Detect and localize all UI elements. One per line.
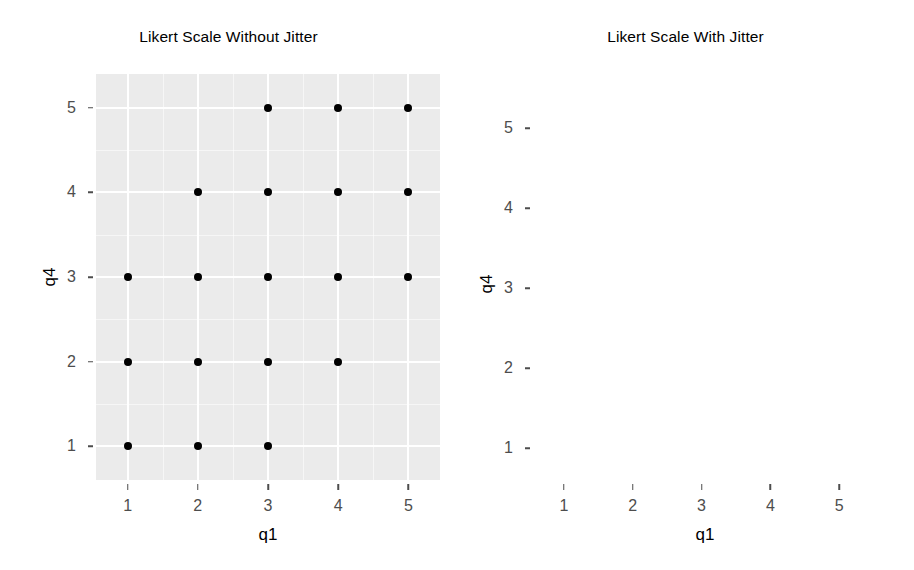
- x-tick-mark: [632, 484, 634, 490]
- y-tick-mark: [525, 127, 530, 129]
- x-tick-label: 3: [697, 497, 706, 515]
- data-point: [194, 442, 202, 450]
- panel-without-jitter: Likert Scale Without Jitter 1234512345 q…: [0, 0, 457, 570]
- y-tick-label: 1: [487, 439, 513, 457]
- x-tick-mark: [770, 484, 772, 490]
- x-tick-mark: [838, 484, 840, 490]
- data-point: [194, 273, 202, 281]
- y-tick-mark: [88, 445, 93, 447]
- data-point: [124, 442, 132, 450]
- y-tick-label: 2: [50, 353, 76, 371]
- data-point: [264, 273, 272, 281]
- y-tick-label: 1: [50, 437, 76, 455]
- data-point: [194, 188, 202, 196]
- figure-canvas: Likert Scale Without Jitter 1234512345 q…: [0, 0, 914, 570]
- x-tick-mark: [337, 484, 339, 490]
- x-tick-label: 1: [560, 497, 569, 515]
- y-tick-label: 4: [50, 183, 76, 201]
- data-point: [264, 104, 272, 112]
- panel-title-left: Likert Scale Without Jitter: [0, 28, 457, 46]
- data-point: [404, 273, 412, 281]
- x-tick-mark: [267, 484, 269, 490]
- y-tick-label: 2: [487, 359, 513, 377]
- x-tick-label: 5: [835, 497, 844, 515]
- x-tick-label: 2: [193, 497, 202, 515]
- data-point: [264, 188, 272, 196]
- y-tick-mark: [88, 192, 93, 194]
- x-tick-mark: [563, 484, 565, 490]
- data-point: [194, 358, 202, 366]
- x-tick-label: 4: [334, 497, 343, 515]
- x-tick-label: 5: [404, 497, 413, 515]
- x-tick-mark: [127, 484, 129, 490]
- y-tick-mark: [525, 447, 530, 449]
- x-tick-label: 1: [123, 497, 132, 515]
- x-tick-mark: [197, 484, 199, 490]
- y-tick-label: 4: [487, 199, 513, 217]
- y-tick-mark: [88, 276, 93, 278]
- x-tick-label: 4: [766, 497, 775, 515]
- data-point: [124, 358, 132, 366]
- data-point: [334, 188, 342, 196]
- y-tick-mark: [525, 367, 530, 369]
- x-axis-title-left: q1: [96, 525, 440, 545]
- plot-area-left: [96, 74, 440, 480]
- data-point: [334, 358, 342, 366]
- data-point: [404, 188, 412, 196]
- panel-with-jitter: Likert Scale With Jitter 1234512345 q1 q…: [457, 0, 914, 570]
- panel-title-right: Likert Scale With Jitter: [457, 28, 914, 46]
- y-tick-mark: [88, 361, 93, 363]
- data-point: [334, 273, 342, 281]
- data-point: [334, 104, 342, 112]
- y-axis-title-left: q4: [40, 227, 60, 327]
- y-tick-label: 5: [487, 119, 513, 137]
- data-point: [264, 442, 272, 450]
- y-tick-label: 5: [50, 99, 76, 117]
- y-tick-mark: [88, 107, 93, 109]
- data-point: [404, 104, 412, 112]
- y-tick-mark: [525, 287, 530, 289]
- y-axis-title-right: q4: [477, 234, 497, 334]
- x-tick-label: 3: [264, 497, 273, 515]
- data-point: [264, 358, 272, 366]
- x-tick-mark: [701, 484, 703, 490]
- data-point: [124, 273, 132, 281]
- x-axis-title-right: q1: [533, 525, 877, 545]
- x-tick-mark: [408, 484, 410, 490]
- x-tick-label: 2: [628, 497, 637, 515]
- y-tick-mark: [525, 207, 530, 209]
